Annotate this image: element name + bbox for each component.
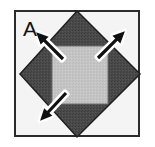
figure-panel-a: A — [0, 0, 155, 147]
figure-canvas: A — [0, 0, 155, 147]
panel-label: A — [23, 17, 37, 40]
